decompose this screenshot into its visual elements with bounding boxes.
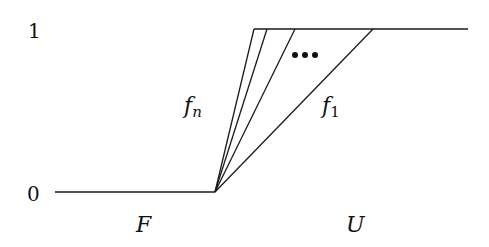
ramp-fn (215, 29, 254, 192)
ramp-f2 (215, 29, 267, 192)
diagram-canvas: 1 0 fn f1 F U (0, 0, 489, 247)
label-region-f: F (135, 212, 152, 237)
ellipsis-dots (292, 52, 318, 58)
ramp-f3 (215, 29, 295, 192)
label-zero: 0 (27, 182, 40, 206)
label-f1: f1 (320, 93, 340, 121)
label-region-u: U (346, 212, 366, 237)
label-one: 1 (28, 19, 41, 43)
label-fn: fn (182, 93, 202, 121)
